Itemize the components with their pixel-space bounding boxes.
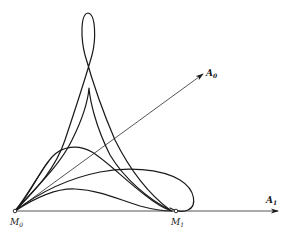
label-m1: M1 [170,217,184,228]
curve-big-loop [15,169,194,211]
point-m0 [13,209,17,213]
label-a1: A1 [265,195,277,206]
label-m0: M0 [9,217,23,228]
curve-family-diagram: M0 M1 A1 A0 [0,0,288,240]
label-a0: A0 [205,68,218,79]
curve-tall-loop [15,13,170,211]
vector-a0-arrow [15,74,203,211]
curve-hump-inner [15,162,48,211]
curve-hump [15,147,172,211]
curve-cusp [15,88,170,211]
curve-low-arc [15,189,172,211]
point-m1 [174,209,178,213]
